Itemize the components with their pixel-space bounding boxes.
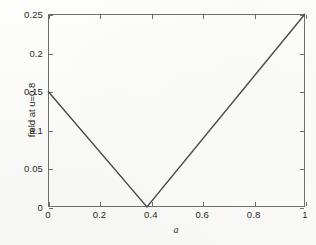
y-axis-tick [300,208,304,209]
x-axis-tick-label: 1 [302,209,307,220]
y-axis-tick-label: 0 [38,202,43,213]
x-axis-label: a [174,224,179,235]
y-axis-tick-label: 0.1 [29,124,43,135]
y-axis-tick-label: 0.2 [29,47,43,58]
x-axis-tick-label: 0.2 [93,209,107,220]
data-series-line [48,14,305,207]
y-axis-tick [49,208,53,209]
x-axis-tick-label: 0 [45,209,50,220]
x-axis-tick-label: 0.8 [247,209,261,220]
x-axis-tick-label: 0.6 [195,209,209,220]
x-axis-tick [306,15,307,19]
x-axis-tick [306,202,307,206]
y-axis-tick-label: 0.15 [24,86,43,97]
x-axis-tick-label: 0.4 [144,209,158,220]
plot-area [48,14,305,207]
y-axis-tick-label: 0.25 [24,9,43,20]
y-axis-tick-label: 0.05 [24,163,43,174]
chart-figure: field at u=0.8 a 00.20.40.60.8100.050.10… [0,0,316,245]
